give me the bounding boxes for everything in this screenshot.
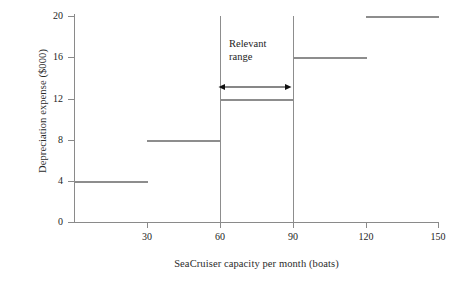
y-tick-4: 4 — [0, 181, 75, 182]
x-tick-label-60: 60 — [200, 231, 240, 243]
x-tick-label-120: 120 — [346, 231, 386, 243]
y-tick-label-16: 16 — [41, 52, 63, 62]
y-tick-16: 16 — [0, 57, 75, 58]
y-tick-20: 20 — [0, 16, 75, 17]
relevant-range-line2: range — [229, 50, 299, 63]
x-tick-30 — [147, 222, 148, 228]
y-tick-label-8: 8 — [41, 135, 63, 145]
relevant-range-annotation: Relevant range — [229, 37, 299, 63]
y-tick-8: 8 — [0, 140, 75, 141]
step-segment-90-120 — [293, 57, 367, 59]
relevant-range-vline-60 — [220, 16, 221, 223]
x-tick-label-30: 30 — [127, 231, 167, 243]
y-tick-label-0: 0 — [41, 217, 63, 227]
y-tick-label-12: 12 — [41, 94, 63, 104]
step-segment-30-60 — [147, 140, 221, 142]
x-tick-120 — [366, 222, 367, 228]
y-axis-line — [74, 14, 75, 223]
y-tick-label-4: 4 — [41, 176, 63, 186]
x-axis-line — [74, 222, 439, 223]
step-segment-60-90 — [220, 99, 294, 101]
step-chart: Depreciation expense ($000) 0 4 8 12 16 … — [0, 0, 469, 284]
y-tick-label-20: 20 — [41, 11, 63, 21]
y-tick-0: 0 — [0, 222, 75, 223]
relevant-range-line1: Relevant — [229, 37, 299, 50]
relevant-range-arrow-icon — [218, 80, 292, 94]
step-segment-120-150 — [366, 16, 439, 18]
x-tick-label-150: 150 — [418, 231, 458, 243]
y-tick-12: 12 — [0, 99, 75, 100]
x-tick-150 — [438, 222, 439, 228]
x-tick-label-90: 90 — [273, 231, 313, 243]
y-axis-title: Depreciation expense ($000) — [36, 0, 50, 222]
step-segment-0-30 — [74, 181, 148, 183]
x-axis-title: SeaCruiser capacity per month (boats) — [74, 258, 439, 269]
